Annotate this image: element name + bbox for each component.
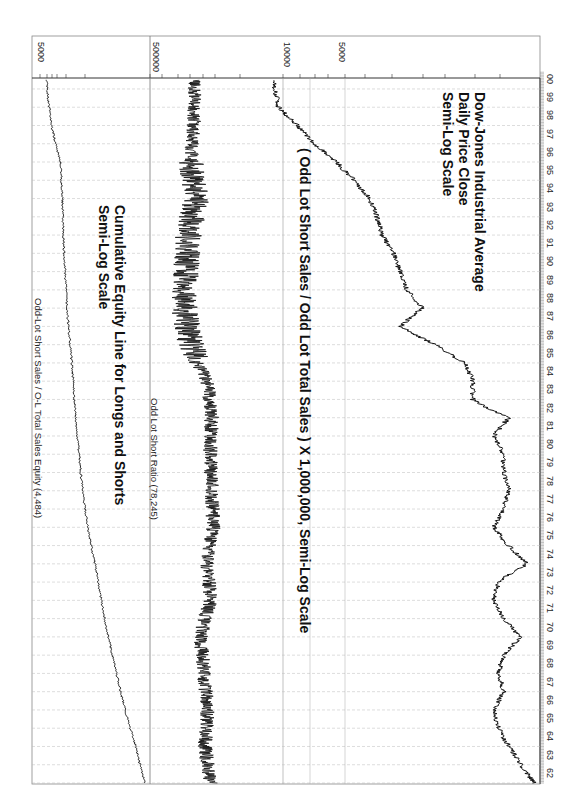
djia-annotation-line2: Daily Price Close bbox=[456, 92, 472, 292]
ratio-panel-title: Odd Lot Short Ratio (78,245) bbox=[149, 398, 160, 520]
year-label: 78 bbox=[545, 476, 555, 486]
year-label: 83 bbox=[545, 384, 555, 394]
ratio-tick-500000: 500000 bbox=[151, 42, 161, 72]
djia-tick-5000: 5000 bbox=[337, 42, 347, 62]
year-label: 74 bbox=[545, 549, 555, 559]
equity-panel-title: Odd-Lot Short Sales / O-L Total Sales Eq… bbox=[33, 298, 44, 518]
equity-annotation: Cumulative Equity Line for Longs and Sho… bbox=[96, 205, 128, 505]
year-label: 63 bbox=[545, 750, 555, 760]
year-label: 00 bbox=[545, 74, 555, 84]
year-label: 65 bbox=[545, 713, 555, 723]
year-label: 76 bbox=[545, 512, 555, 522]
equity-tick-5000: 5000 bbox=[36, 42, 46, 62]
year-label: 88 bbox=[545, 293, 555, 303]
year-label: 95 bbox=[545, 165, 555, 175]
year-label: 86 bbox=[545, 330, 555, 340]
year-label: 73 bbox=[545, 567, 555, 577]
year-label: 93 bbox=[545, 202, 555, 212]
year-label: 80 bbox=[545, 439, 555, 449]
ratio-line bbox=[172, 80, 220, 783]
year-label: 90 bbox=[545, 256, 555, 266]
year-label: 67 bbox=[545, 677, 555, 687]
year-label: 82 bbox=[545, 403, 555, 413]
year-label: 62 bbox=[545, 768, 555, 778]
ratio-annotation-line1: ( Odd Lot Short Sales / Odd Lot Total Sa… bbox=[297, 148, 313, 633]
year-label: 99 bbox=[545, 92, 555, 102]
equity-annotation-line1: Cumulative Equity Line for Longs and Sho… bbox=[112, 205, 128, 505]
year-label: 77 bbox=[545, 494, 555, 504]
year-label: 70 bbox=[545, 622, 555, 632]
ratio-annotation: ( Odd Lot Short Sales / Odd Lot Total Sa… bbox=[297, 148, 313, 633]
year-label: 89 bbox=[545, 275, 555, 285]
year-label: 87 bbox=[545, 311, 555, 321]
year-label: 72 bbox=[545, 585, 555, 595]
year-label: 69 bbox=[545, 640, 555, 650]
year-label: 68 bbox=[545, 658, 555, 668]
year-label: 98 bbox=[545, 110, 555, 120]
year-label: 85 bbox=[545, 348, 555, 358]
year-label: 92 bbox=[545, 220, 555, 230]
year-label: 96 bbox=[545, 147, 555, 157]
year-label: 84 bbox=[545, 366, 555, 376]
year-label: 94 bbox=[545, 183, 555, 193]
value-ticks bbox=[40, 74, 500, 78]
year-minor-ticks bbox=[540, 72, 544, 783]
year-label: 79 bbox=[545, 457, 555, 467]
djia-annotation-line1: Dow-Jones Industrial Average bbox=[472, 92, 488, 292]
djia-annotation-line3: Semi-Log Scale bbox=[440, 92, 456, 292]
year-label: 64 bbox=[545, 731, 555, 741]
year-label: 97 bbox=[545, 129, 555, 139]
year-label: 75 bbox=[545, 530, 555, 540]
year-label: 91 bbox=[545, 238, 555, 248]
equity-annotation-line2: Semi-Log Scale bbox=[96, 205, 112, 505]
djia-annotation: Dow-Jones Industrial Average Daily Price… bbox=[440, 92, 488, 292]
plot-area bbox=[0, 0, 583, 790]
year-label: 66 bbox=[545, 695, 555, 705]
year-label: 81 bbox=[545, 421, 555, 431]
rotated-chart: 5000 500000 10000 5000 Odd-Lot Short Sal… bbox=[0, 0, 583, 790]
year-label: 71 bbox=[545, 603, 555, 613]
djia-tick-10000: 10000 bbox=[282, 42, 292, 67]
